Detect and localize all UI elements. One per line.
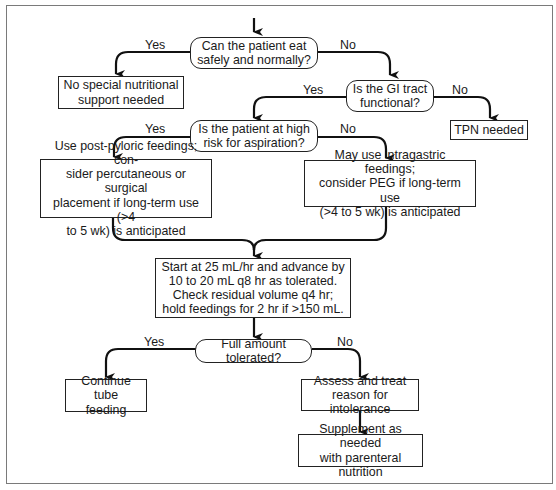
supplement-line-1: Supplement as needed <box>302 422 419 450</box>
intragastric-line-1: May use intragastric feedings; <box>308 148 472 176</box>
no-support-line-2: support needed <box>63 93 178 107</box>
post-pyloric-line-1: Use post-pyloric feedings; con- <box>44 139 208 167</box>
decision-can-eat-line-2: safely and normally? <box>197 53 311 67</box>
decision-can-eat: Can the patient eat safely and normally? <box>190 37 318 69</box>
continue-line-2: feeding <box>69 403 143 417</box>
tpn-line-1: TPN needed <box>454 123 524 137</box>
process-post-pyloric-feedings: Use post-pyloric feedings; con- sider pe… <box>40 159 212 218</box>
start-rate-line-3: Check residual volume q4 hr; <box>161 288 344 302</box>
decision-gi-line-1: Is the GI tract <box>353 82 427 96</box>
process-start-rate: Start at 25 mL/hr and advance by 10 to 2… <box>155 258 351 318</box>
decision-gi-functional: Is the GI tract functional? <box>346 80 434 112</box>
edge-label-eat-no: No <box>340 38 356 52</box>
post-pyloric-line-2: sider percutaneous or surgical <box>44 167 208 195</box>
supplement-line-2: with parenteral nutrition <box>302 451 419 479</box>
decision-asp-line-1: Is the patient at high <box>198 122 310 136</box>
post-pyloric-line-3: placement if long-term use (>4 <box>44 196 208 224</box>
intragastric-line-2: consider PEG if long-term use <box>308 176 472 204</box>
edge-label-asp-no: No <box>340 122 356 136</box>
edge-label-tol-no: No <box>337 335 353 349</box>
no-support-line-1: No special nutritional <box>63 78 178 92</box>
edge-label-gi-yes: Yes <box>303 83 323 97</box>
process-intragastric-feedings: May use intragastric feedings; consider … <box>304 160 476 207</box>
edge-label-gi-no: No <box>452 83 468 97</box>
decision-can-eat-line-1: Can the patient eat <box>197 39 311 53</box>
assess-line-2: reason for intolerance <box>305 388 415 416</box>
decision-full-amount-tolerated: Full amount tolerated? <box>195 339 312 363</box>
continue-line-1: Continue tube <box>69 374 143 402</box>
decision-tol-line-1: Full amount tolerated? <box>199 337 308 365</box>
decision-asp-line-2: risk for aspiration? <box>198 136 310 150</box>
start-rate-line-2: 10 to 20 mL q8 hr as tolerated. <box>161 274 344 288</box>
assess-line-1: Assess and treat <box>305 374 415 388</box>
decision-gi-line-2: functional? <box>353 96 427 110</box>
start-rate-line-1: Start at 25 mL/hr and advance by <box>161 260 344 274</box>
edge-label-asp-yes: Yes <box>145 122 165 136</box>
process-continue-tube-feeding: Continue tube feeding <box>65 379 147 412</box>
process-tpn-needed: TPN needed <box>450 120 528 140</box>
decision-aspiration-risk: Is the patient at high risk for aspirati… <box>190 120 318 152</box>
process-supplement-parenteral: Supplement as needed with parenteral nut… <box>298 434 423 467</box>
start-rate-line-4: hold feedings for 2 hr if >150 mL. <box>161 302 344 316</box>
post-pyloric-line-4: to 5 wk) is anticipated <box>44 224 208 238</box>
intragastric-line-3: (>4 to 5 wk) is anticipated <box>308 205 472 219</box>
edge-label-tol-yes: Yes <box>144 335 164 349</box>
process-assess-intolerance: Assess and treat reason for intolerance <box>301 379 419 411</box>
process-no-special-support: No special nutritional support needed <box>58 76 184 109</box>
edge-label-eat-yes: Yes <box>145 38 165 52</box>
